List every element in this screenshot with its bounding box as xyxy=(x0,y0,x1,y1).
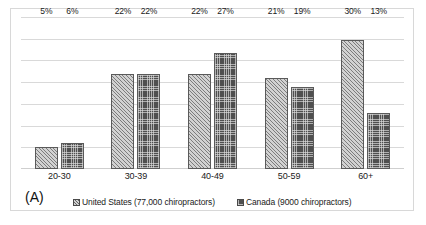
bar-value-label: 6% xyxy=(66,6,78,16)
bar-group: 22%27% xyxy=(174,17,251,169)
bar-us-20-30: 5% xyxy=(35,17,58,169)
bar-value-label: 19% xyxy=(294,6,310,16)
bar-value-label: 13% xyxy=(370,6,386,16)
panel-label: (A) xyxy=(25,189,44,205)
bar: 21% xyxy=(265,78,288,169)
bar: 5% xyxy=(35,147,58,169)
bar-us-50-59: 21% xyxy=(265,17,288,169)
bar: 6% xyxy=(61,143,84,169)
category-label-30-39: 30-39 xyxy=(98,171,175,187)
bar-value-label: 22% xyxy=(115,6,131,16)
bar-us-60+: 30% xyxy=(341,17,364,169)
bar-groups: 5%6%22%22%22%27%21%19%30%13% xyxy=(21,17,404,169)
bar: 30% xyxy=(341,40,364,169)
bar-value-label: 30% xyxy=(344,6,360,16)
category-label-50-59: 50-59 xyxy=(251,171,328,187)
bar-group: 22%22% xyxy=(98,17,175,169)
bar: 27% xyxy=(214,53,237,169)
bar-ca-20-30: 6% xyxy=(61,17,84,169)
bar-ca-30-39: 22% xyxy=(137,17,160,169)
bar: 22% xyxy=(188,74,211,169)
bar: 22% xyxy=(137,74,160,169)
bar-group: 21%19% xyxy=(251,17,328,169)
category-axis: 20-3030-3940-4950-5960+ xyxy=(21,171,404,187)
legend-label: Canada (9000 chiropractors) xyxy=(246,197,352,207)
bar-value-label: 22% xyxy=(191,6,207,16)
bar-value-label: 21% xyxy=(268,6,284,16)
plot-area: 5%6%22%22%22%27%21%19%30%13% xyxy=(21,17,404,169)
legend-item-ca[interactable]: Canada (9000 chiropractors) xyxy=(237,197,352,207)
bar-group: 30%13% xyxy=(327,17,404,169)
bar-value-label: 22% xyxy=(141,6,157,16)
bar: 13% xyxy=(367,113,390,169)
bar-us-30-39: 22% xyxy=(111,17,134,169)
category-label-20-30: 20-30 xyxy=(21,171,98,187)
legend-swatch-icon xyxy=(73,199,80,206)
chart-legend: United States (77,000 chiropractors)Cana… xyxy=(73,194,403,210)
category-label-40-49: 40-49 xyxy=(174,171,251,187)
bar: 19% xyxy=(291,87,314,169)
chart-frame: 5%6%22%22%22%27%21%19%30%13% 20-3030-394… xyxy=(10,8,414,211)
bar-value-label: 27% xyxy=(217,6,233,16)
bar-ca-40-49: 27% xyxy=(214,17,237,169)
legend-swatch-icon xyxy=(237,199,244,206)
bar-ca-60+: 13% xyxy=(367,17,390,169)
bar-us-40-49: 22% xyxy=(188,17,211,169)
legend-label: United States (77,000 chiropractors) xyxy=(82,197,215,207)
bar-ca-50-59: 19% xyxy=(291,17,314,169)
legend-item-us[interactable]: United States (77,000 chiropractors) xyxy=(73,197,215,207)
bar: 22% xyxy=(111,74,134,169)
bar-value-label: 5% xyxy=(40,6,52,16)
category-label-60+: 60+ xyxy=(327,171,404,187)
bar-group: 5%6% xyxy=(21,17,98,169)
